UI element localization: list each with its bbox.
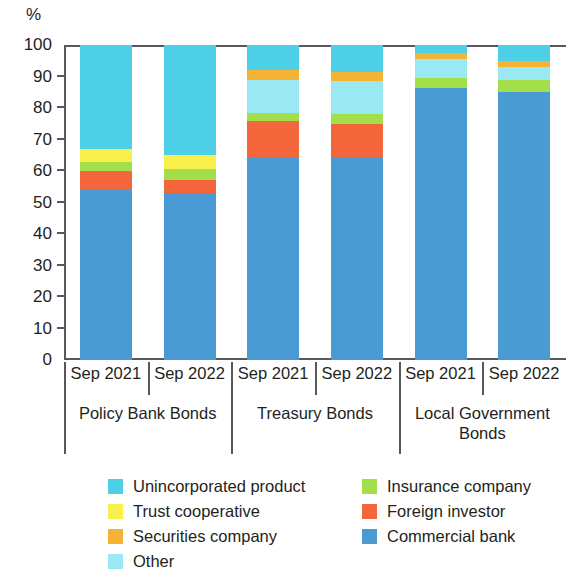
bar-segment [331, 45, 383, 72]
legend-swatch-icon [108, 479, 123, 494]
x-axis-separator [64, 362, 66, 454]
legend-item-label: Securities company [133, 528, 277, 545]
y-axis-tick-label: 80 [33, 99, 52, 116]
x-axis-category-label: Sep 2022 [482, 364, 566, 383]
bar-segment [331, 157, 383, 360]
bar-segment [80, 149, 132, 162]
bars-layer [64, 45, 566, 360]
x-axis-category-label: Sep 2022 [315, 364, 399, 383]
legend-item-label: Unincorporated product [133, 478, 305, 495]
legend-item[interactable]: Other [108, 549, 305, 573]
y-axis-tick-label: 90 [33, 68, 52, 85]
bar-segment [498, 80, 550, 93]
legend-item-label: Foreign investor [387, 503, 505, 520]
bar-segment [247, 45, 299, 70]
y-axis-tick-label: 70 [33, 131, 52, 148]
x-axis-separator [231, 362, 233, 454]
legend-item-label: Trust cooperative [133, 503, 260, 520]
x-axis-separator [315, 362, 317, 395]
bar-stack [164, 45, 216, 360]
bar-segment [247, 80, 299, 113]
bar-segment [331, 81, 383, 114]
legend-column-left: Unincorporated productTrust cooperativeS… [108, 474, 305, 573]
legend-item-label: Insurance company [387, 478, 531, 495]
legend-swatch-icon [108, 529, 123, 544]
y-axis-tick-label: 50 [33, 194, 52, 211]
legend-item-label: Other [133, 553, 174, 570]
y-axis-tick-mark [57, 295, 64, 297]
legend-item[interactable]: Commercial bank [362, 524, 531, 549]
bar-stack [331, 45, 383, 360]
legend-swatch-icon [108, 504, 123, 519]
x-axis-group-label: Treasury Bonds [231, 403, 398, 423]
y-axis-tick-label: 20 [33, 288, 52, 305]
y-axis-tick: 80 [0, 99, 64, 116]
y-axis-tick: 50 [0, 194, 64, 211]
y-axis-tick: 90 [0, 68, 64, 85]
bar-segment [80, 45, 132, 149]
bar-stack [247, 45, 299, 360]
bar-segment [331, 114, 383, 123]
x-axis-group-label: Policy Bank Bonds [64, 403, 231, 423]
x-axis-category-label: Sep 2022 [148, 364, 232, 383]
bar-segment [498, 45, 550, 61]
bar-stack [498, 45, 550, 360]
y-axis-tick-mark [57, 75, 64, 77]
bar-segment [415, 45, 467, 53]
bar-segment [164, 155, 216, 169]
bar-segment [247, 113, 299, 121]
y-axis-tick-mark [57, 138, 64, 140]
y-axis-tick-label: 30 [33, 257, 52, 274]
bar-segment [164, 180, 216, 193]
bar-segment [415, 88, 467, 360]
y-axis-tick: 40 [0, 225, 64, 242]
legend-item[interactable]: Insurance company [362, 474, 531, 499]
legend-swatch-icon [362, 479, 377, 494]
y-axis-tick: 30 [0, 257, 64, 274]
legend-item-label: Commercial bank [387, 528, 515, 545]
bar-segment [498, 92, 550, 360]
bar-segment [498, 67, 550, 80]
legend-column-right: Insurance companyForeign investorCommerc… [362, 474, 531, 549]
x-axis-category-label: Sep 2021 [64, 364, 148, 383]
bar-segment [80, 190, 132, 360]
x-axis-category-label: Sep 2021 [231, 364, 315, 383]
legend-item[interactable]: Unincorporated product [108, 474, 305, 499]
y-axis-tick-label: 60 [33, 162, 52, 179]
bar-segment [415, 78, 467, 87]
bar-segment [164, 193, 216, 360]
legend-swatch-icon [362, 504, 377, 519]
bar-segment [247, 121, 299, 157]
y-axis-tick: 0 [0, 351, 64, 368]
bar-stack [415, 45, 467, 360]
y-axis-tick-label: 40 [33, 225, 52, 242]
bar-segment [247, 70, 299, 79]
bar-segment [415, 59, 467, 78]
y-axis-tick: 60 [0, 162, 64, 179]
y-axis-tick-mark [57, 201, 64, 203]
y-axis-tick-label: 10 [33, 320, 52, 337]
bar-stack [80, 45, 132, 360]
legend-item[interactable]: Foreign investor [362, 499, 531, 524]
x-axis-category-label: Sep 2021 [399, 364, 483, 383]
bar-segment [164, 169, 216, 180]
y-axis-tick-label: 0 [43, 351, 52, 368]
chart-legend: Unincorporated productTrust cooperativeS… [0, 474, 570, 555]
bar-segment [247, 157, 299, 360]
legend-swatch-icon [362, 529, 377, 544]
y-axis-tick-mark [57, 106, 64, 108]
y-axis-tick: 20 [0, 288, 64, 305]
x-axis-group-label: Local Government Bonds [399, 403, 566, 443]
legend-item[interactable]: Securities company [108, 524, 305, 549]
y-axis-tick-mark [57, 232, 64, 234]
y-axis-tick: 70 [0, 131, 64, 148]
bar-segment [80, 162, 132, 171]
x-axis-separator [482, 362, 484, 395]
y-axis-tick: 10 [0, 320, 64, 337]
x-axis-separator [399, 362, 401, 454]
y-axis-tick-mark [57, 264, 64, 266]
legend-item[interactable]: Trust cooperative [108, 499, 305, 524]
bar-segment [80, 171, 132, 190]
legend-swatch-icon [108, 554, 123, 569]
